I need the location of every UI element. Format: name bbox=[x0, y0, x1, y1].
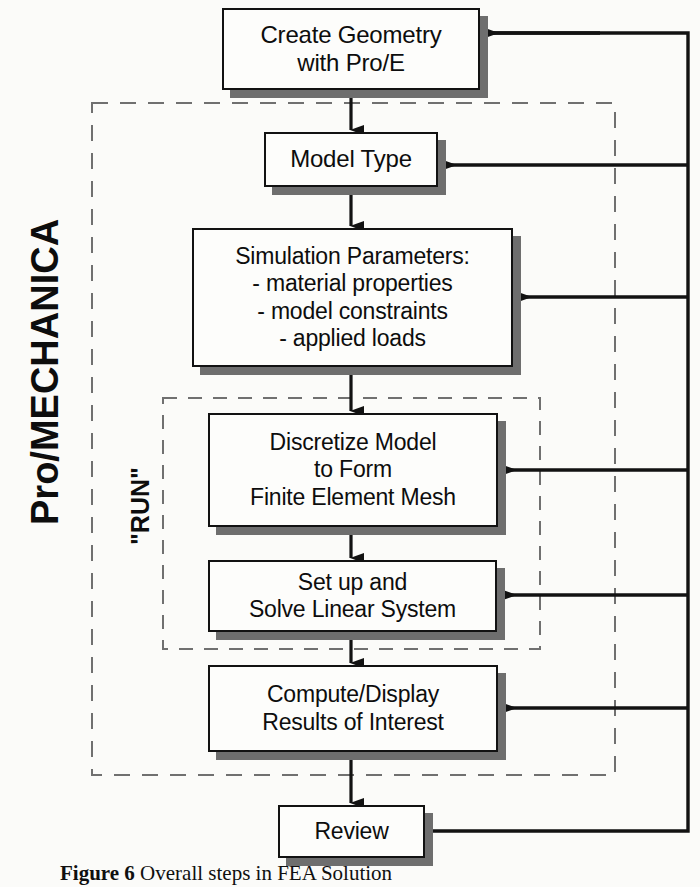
node-compute-display-results[interactable]: Compute/Display Results of Interest bbox=[208, 665, 498, 752]
group-label-run: "RUN" bbox=[126, 467, 155, 545]
node-discretize-model-label: Discretize Model to Form Finite Element … bbox=[210, 429, 496, 510]
figure-caption: Figure 6 Overall steps in FEA Solution bbox=[60, 861, 700, 886]
node-simulation-parameters-label: Simulation Parameters: - material proper… bbox=[194, 243, 511, 352]
node-simulation-parameters[interactable]: Simulation Parameters: - material proper… bbox=[192, 228, 513, 367]
figure-canvas: Create Geometry with Pro/E Model Type Si… bbox=[0, 0, 700, 887]
node-create-geometry-label: Create Geometry with Pro/E bbox=[224, 21, 478, 78]
figure-caption-text: Overall steps in FEA Solution bbox=[140, 861, 392, 885]
node-discretize-model[interactable]: Discretize Model to Form Finite Element … bbox=[208, 413, 498, 527]
node-model-type[interactable]: Model Type bbox=[264, 132, 438, 187]
node-compute-display-results-label: Compute/Display Results of Interest bbox=[210, 681, 496, 735]
node-solve-linear-system[interactable]: Set up and Solve Linear System bbox=[208, 560, 497, 632]
group-label-pro-mechanica: Pro/MECHANICA bbox=[24, 219, 67, 525]
figure-caption-label: Figure 6 bbox=[60, 861, 135, 885]
node-model-type-label: Model Type bbox=[266, 145, 436, 173]
node-review[interactable]: Review bbox=[278, 805, 425, 858]
node-review-label: Review bbox=[280, 818, 423, 845]
node-create-geometry[interactable]: Create Geometry with Pro/E bbox=[222, 8, 480, 90]
node-solve-linear-system-label: Set up and Solve Linear System bbox=[210, 569, 495, 623]
